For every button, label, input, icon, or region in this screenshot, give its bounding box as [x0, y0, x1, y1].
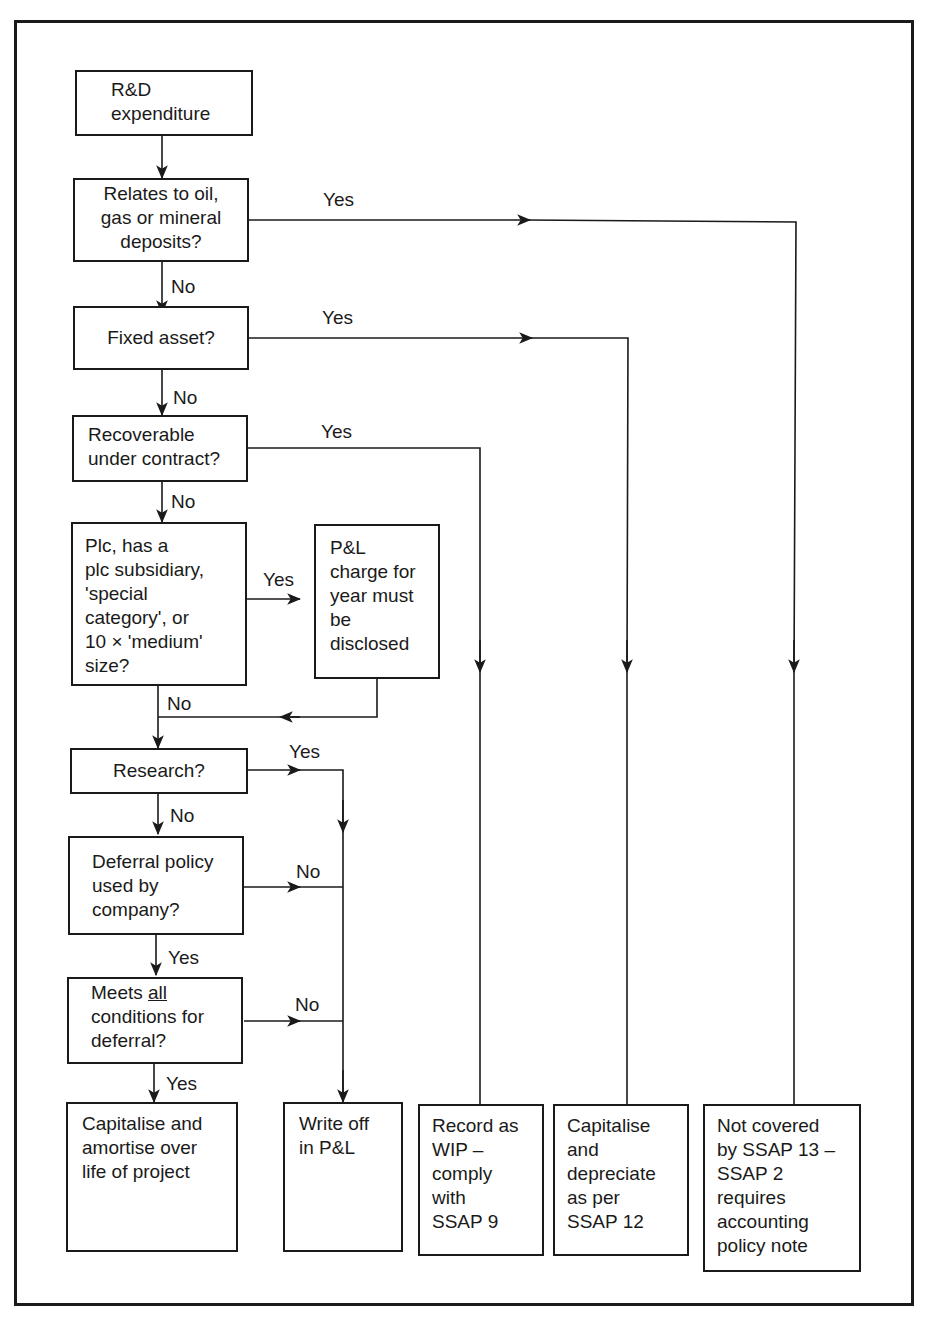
- outcome-not-covered: Not covered by SSAP 13 – SSAP 2 requires…: [703, 1104, 861, 1272]
- label-fixed-no: No: [173, 388, 197, 408]
- node-pl-disclose: P&L charge for year must be disclosed: [314, 524, 440, 679]
- label-recoverable-no: No: [171, 492, 195, 512]
- node-oil-gas-question: Relates to oil, gas or mineral deposits?: [73, 178, 249, 262]
- label-fixed-yes: Yes: [322, 308, 353, 328]
- outcome-write-off: Write off in P&L: [283, 1102, 403, 1252]
- label-deferral-yes: Yes: [168, 948, 199, 968]
- label-deferral-no: No: [296, 862, 320, 882]
- outcome-record-wip: Record as WIP – comply with SSAP 9: [418, 1104, 544, 1256]
- meets-prefix: Meets: [91, 982, 148, 1003]
- meets-underlined: all: [148, 982, 167, 1003]
- label-oil-no: No: [171, 277, 195, 297]
- label-oil-yes: Yes: [323, 190, 354, 210]
- node-fixed-asset-question: Fixed asset?: [73, 306, 249, 370]
- node-rd-expenditure: R&D expenditure: [75, 70, 253, 136]
- node-recoverable-question: Recoverable under contract?: [72, 415, 248, 482]
- label-research-yes: Yes: [289, 742, 320, 762]
- label-plc-yes: Yes: [263, 570, 294, 590]
- outcome-capitalise-amortise: Capitalise and amortise over life of pro…: [66, 1102, 238, 1252]
- outcome-capitalise-depreciate: Capitalise and depreciate as per SSAP 12: [553, 1104, 689, 1256]
- node-plc-question: Plc, has a plc subsidiary, 'special cate…: [71, 522, 247, 686]
- label-plc-no: No: [167, 694, 191, 714]
- label-research-no: No: [170, 806, 194, 826]
- meets-suffix: conditions for deferral?: [91, 1006, 204, 1051]
- node-meets-conditions-question: Meets all conditions for deferral?: [67, 977, 243, 1064]
- label-meets-no: No: [295, 995, 319, 1015]
- label-recoverable-yes: Yes: [321, 422, 352, 442]
- label-meets-yes: Yes: [166, 1074, 197, 1094]
- node-deferral-policy-question: Deferral policy used by company?: [68, 836, 244, 935]
- node-research-question: Research?: [70, 748, 248, 794]
